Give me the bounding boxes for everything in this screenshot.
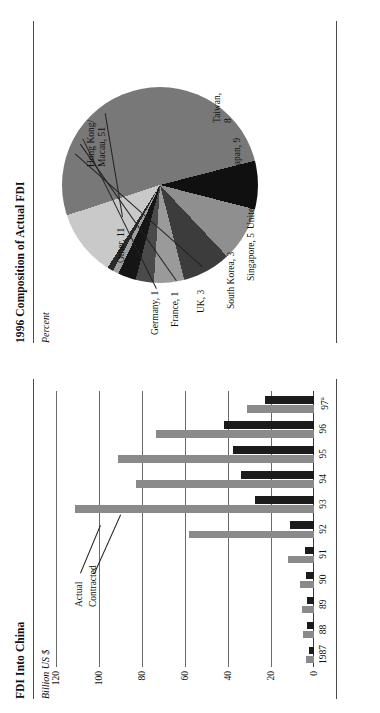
x-axis-tick-label: 93 <box>318 491 328 516</box>
x-axis-tick-label: 91 <box>318 542 328 567</box>
pie-slice-label-france: France, 1 <box>170 292 181 327</box>
bar-actual <box>290 522 314 530</box>
x-axis-tick-label: 92 <box>318 516 328 541</box>
x-axis-tick-label: 88 <box>318 617 328 642</box>
pie-bottom-rule <box>336 21 337 343</box>
y-axis-tick-label: 40 <box>223 671 233 697</box>
pie-slice-label-taiwan: Taiwan, 8 <box>212 87 233 123</box>
bar-actual <box>307 597 314 605</box>
x-axis-tick-label: 89 <box>318 592 328 617</box>
bar-actual <box>265 396 314 404</box>
y-axis-tick-label: 0 <box>309 671 319 697</box>
pie-slice-label-united-states: United States, 8 <box>246 169 257 229</box>
title-rule <box>33 379 34 699</box>
x-axis-tick-label: 1987 <box>318 642 328 667</box>
bar-actual <box>241 471 314 479</box>
bar-group <box>56 441 314 466</box>
y-axis-tick-label: 20 <box>266 671 276 697</box>
figure-fdi-into-china: FDI Into China Billion US $ 020406080100… <box>0 357 380 713</box>
y-axis-tick-label: 120 <box>51 671 61 697</box>
bar-plot-area: 020406080100120198788899091929394959697a… <box>56 391 314 667</box>
bar-contracted <box>75 505 315 513</box>
legend-label-contracted: Contracted <box>88 565 98 607</box>
bar-group <box>56 617 314 642</box>
bar-contracted <box>306 656 314 664</box>
x-axis-tick-label: 97a <box>318 391 330 416</box>
pie-slice-label-uk: UK, 3 <box>196 290 207 313</box>
y-axis-tick-label: 80 <box>137 671 147 697</box>
pie-chart-subtitle: Percent <box>40 312 51 343</box>
x-axis-tick-label: 96 <box>318 416 328 441</box>
bar-contracted <box>300 581 314 589</box>
bar-group <box>56 416 314 441</box>
pie-wrapper: Hong Kong/ Macau, 51Taiwan, 8Japan, 9Uni… <box>62 87 258 283</box>
bar-actual <box>233 446 314 454</box>
legend-label-actual: Actual <box>74 582 84 607</box>
bar-actual <box>224 421 314 429</box>
bar-actual <box>307 622 314 630</box>
bar-contracted <box>118 455 314 463</box>
bar-contracted <box>288 556 314 564</box>
x-axis-tick-label: 90 <box>318 567 328 592</box>
bar-actual <box>255 496 314 504</box>
bar-chart-title: FDI Into China <box>14 622 26 699</box>
bar-contracted <box>156 430 314 438</box>
bar-actual <box>305 547 314 555</box>
bar-contracted <box>247 405 314 413</box>
bar-actual <box>309 647 314 655</box>
figure-1996-composition: 1996 Composition of Actual FDI Percent H… <box>0 0 380 357</box>
pie-slice-label-south-korea: South Korea, 3 <box>226 252 237 309</box>
y-axis-tick-label: 100 <box>94 671 104 697</box>
pie-slice-label-hong-kong-macau: Hong Kong/ Macau, 51 <box>86 120 107 167</box>
bottom-rule <box>336 379 337 699</box>
bar-chart-subtitle: Billion US $ <box>40 650 51 699</box>
pie-title-rule <box>33 21 34 343</box>
bar-contracted <box>303 631 314 639</box>
bar-contracted <box>302 606 314 614</box>
bar-group <box>56 642 314 667</box>
pie-slice-label-japan: Japan, 9 <box>232 138 243 169</box>
x-axis-tick-label: 95 <box>318 441 328 466</box>
pie-chart-title: 1996 Composition of Actual FDI <box>14 182 26 343</box>
x-axis-tick-label: 94 <box>318 466 328 491</box>
pie-slice-label-other: Other, 11 <box>116 228 127 263</box>
bar-group <box>56 391 314 416</box>
rotated-page: FDI Into China Billion US $ 020406080100… <box>0 0 380 713</box>
bar-group <box>56 542 314 567</box>
bar-contracted <box>136 480 314 488</box>
pie-slice-label-singapore: Singapore, 5 <box>246 233 257 281</box>
bar-actual <box>306 572 314 580</box>
bar-contracted <box>189 531 314 539</box>
pie-slice-label-germany: Germany, 1 <box>150 291 161 335</box>
bar-group <box>56 491 314 516</box>
y-axis-tick-label: 60 <box>180 671 190 697</box>
bar-group <box>56 466 314 491</box>
